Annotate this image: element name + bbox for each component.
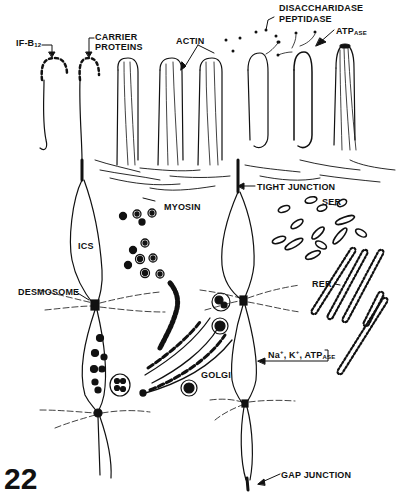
microvilli-right xyxy=(248,44,356,150)
label-disaccharidase: DISACCHARIDASE xyxy=(279,3,363,13)
label-tight-junction: TIGHT JUNCTION xyxy=(257,182,335,192)
label-myosin: MYOSIN xyxy=(164,202,201,212)
label-golgi: GOLGI xyxy=(201,370,231,380)
label-if-b12: IF-B12 xyxy=(16,38,41,50)
label-ser: SER xyxy=(322,197,341,207)
leader-lines xyxy=(42,17,340,485)
label-gap-junction: GAP JUNCTION xyxy=(281,470,351,480)
label-carrier-proteins: CARRIER PROTEINS xyxy=(95,32,143,52)
granules xyxy=(91,335,108,394)
cell-diagram xyxy=(0,0,401,499)
figure-number: 22 xyxy=(4,462,37,496)
desmosome-filaments xyxy=(40,285,300,428)
label-desmosome: DESMOSOME xyxy=(18,287,79,297)
label-na-k-atpase: Na+, K+, ATPASE xyxy=(268,347,335,362)
label-peptidase: PEPTIDASE xyxy=(279,14,332,24)
label-ics: ICS xyxy=(78,241,94,251)
left-cell-boundary xyxy=(70,160,111,478)
smooth-er xyxy=(271,196,367,262)
label-rer: RER xyxy=(312,279,332,289)
label-actin: ACTIN xyxy=(176,36,205,46)
right-cell-boundary xyxy=(222,160,257,490)
label-atpase: ATPASE xyxy=(336,26,367,38)
vesicles xyxy=(120,209,165,278)
microvilli-left xyxy=(40,58,222,165)
